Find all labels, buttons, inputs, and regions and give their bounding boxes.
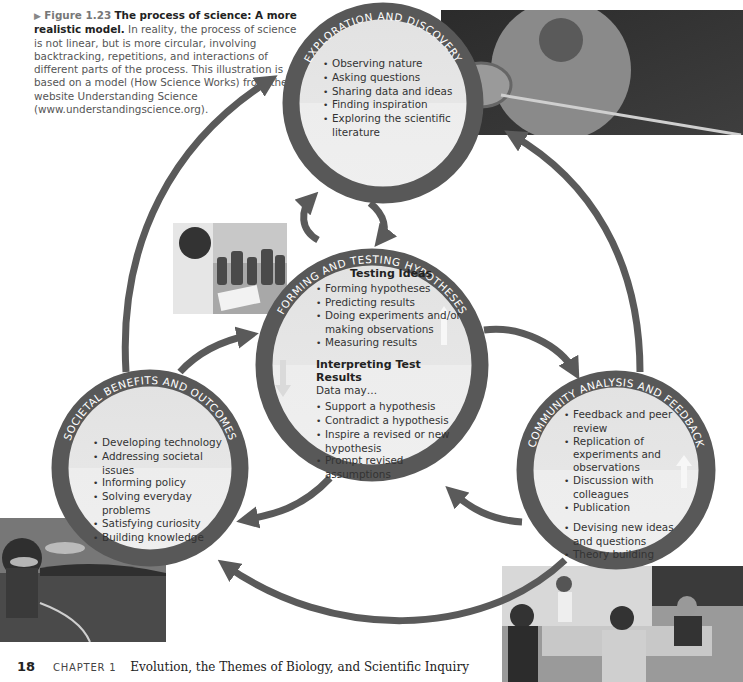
list-item: Feedback and peer review bbox=[564, 408, 686, 435]
societal-content: Developing technology Addressing societa… bbox=[93, 436, 233, 544]
arrow-societal-to-testing bbox=[180, 335, 250, 372]
chapter-label: CHAPTER 1 bbox=[53, 662, 117, 673]
chapter-title: Evolution, the Themes of Biology, and Sc… bbox=[130, 660, 469, 674]
list-item: Informing policy bbox=[93, 476, 233, 490]
arrow-testing-to-societal bbox=[245, 478, 330, 520]
testing-ideas-list: Forming hypotheses Predicting results Do… bbox=[316, 282, 466, 350]
figure-canvas: ▶ Figure 1.23 The process of science: A … bbox=[0, 0, 743, 682]
list-item: Prompt revised assumptions bbox=[316, 454, 466, 481]
list-item: Devising new ideas and questions bbox=[564, 521, 686, 548]
interpreting-results-heading: Interpreting Test Results bbox=[316, 359, 466, 385]
list-item: Observing nature bbox=[323, 57, 463, 71]
page-number: 18 bbox=[17, 659, 35, 674]
list-item: Measuring results bbox=[316, 336, 466, 350]
list-item: Predicting results bbox=[316, 296, 466, 310]
list-item: Finding inspiration bbox=[323, 98, 463, 112]
list-item: Satisfying curiosity bbox=[93, 517, 233, 531]
list-item: Exploring the scientific literature bbox=[323, 112, 463, 139]
arrow-community-to-societal bbox=[225, 560, 565, 621]
arrow-societal-to-exploration bbox=[125, 80, 270, 372]
list-item: Sharing data and ideas bbox=[323, 85, 463, 99]
list-item: Addressing societal issues bbox=[93, 450, 233, 477]
arrow-testing-to-exploration bbox=[304, 198, 318, 240]
list-item: Publication bbox=[564, 501, 686, 515]
interpreting-results-list: Support a hypothesis Contradict a hypoth… bbox=[316, 400, 466, 481]
list-item: Solving everyday problems bbox=[93, 490, 233, 517]
arrow-exploration-to-testing bbox=[370, 203, 384, 240]
arrow-testing-to-community bbox=[484, 329, 575, 372]
arrow-community-to-testing bbox=[452, 492, 522, 522]
list-item: Developing technology bbox=[93, 436, 233, 450]
list-item: Building knowledge bbox=[93, 531, 233, 545]
interpreting-results-intro: Data may… bbox=[316, 384, 466, 397]
exploration-content: Observing nature Asking questions Sharin… bbox=[323, 57, 463, 139]
list-item: Inspire a revised or new hypothesis bbox=[316, 428, 466, 455]
list-item: Doing experiments and/or making observat… bbox=[316, 309, 466, 336]
list-item: Theory building bbox=[564, 548, 686, 562]
testing-content: Testing Ideas Forming hypotheses Predict… bbox=[316, 268, 466, 481]
community-list-top: Feedback and peer review Replication of … bbox=[564, 408, 686, 514]
list-item: Support a hypothesis bbox=[316, 400, 466, 414]
community-content: Feedback and peer review Replication of … bbox=[564, 408, 686, 562]
list-item: Replication of experiments and observati… bbox=[564, 435, 686, 474]
societal-list: Developing technology Addressing societa… bbox=[93, 436, 233, 544]
list-item: Discussion with colleagues bbox=[564, 474, 686, 501]
exploration-list: Observing nature Asking questions Sharin… bbox=[323, 57, 463, 139]
page-footer: 18 CHAPTER 1 Evolution, the Themes of Bi… bbox=[17, 659, 469, 674]
list-item: Forming hypotheses bbox=[316, 282, 466, 296]
community-list-bottom: Devising new ideas and questions Theory … bbox=[564, 521, 686, 561]
testing-ideas-heading: Testing Ideas bbox=[316, 268, 466, 281]
list-item: Contradict a hypothesis bbox=[316, 414, 466, 428]
list-item: Asking questions bbox=[323, 71, 463, 85]
